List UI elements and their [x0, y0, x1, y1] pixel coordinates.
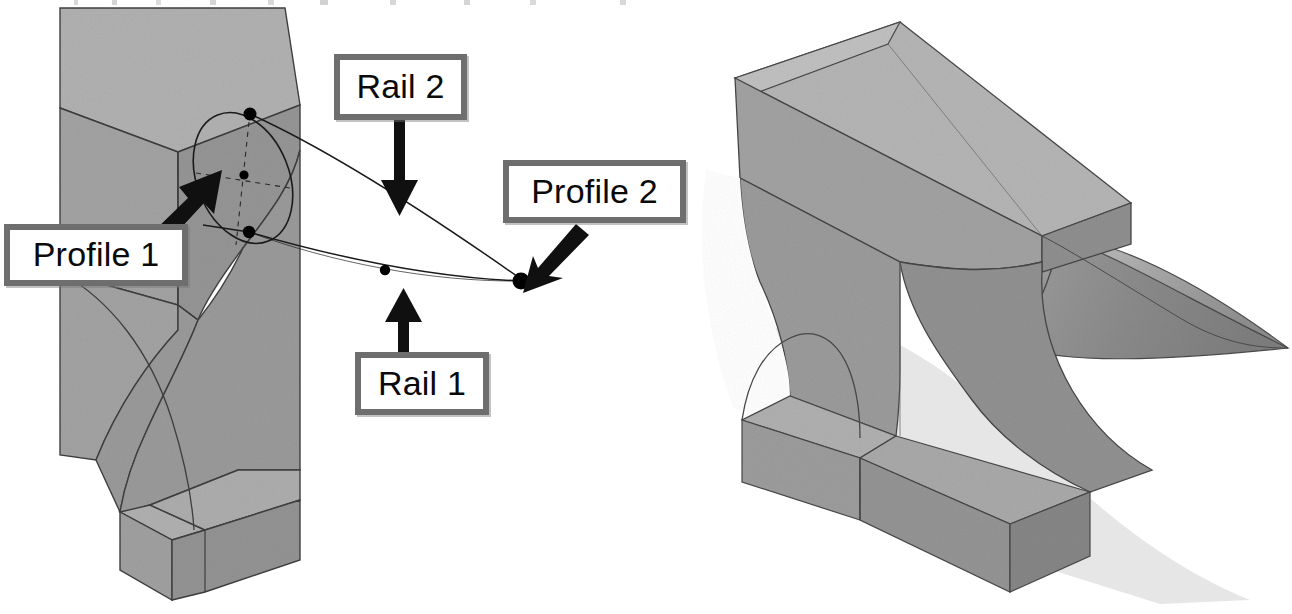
figure-illustration: [0, 0, 1292, 614]
callout-profile-1-label: Profile 1: [23, 237, 170, 271]
rail-2-leader-arrow: [381, 118, 418, 216]
rail-1-mid-point[interactable]: [380, 265, 390, 275]
callout-rail-1-label: Rail 1: [368, 366, 476, 400]
callout-profile-2-label: Profile 2: [521, 174, 668, 208]
callout-profile-2[interactable]: Profile 2: [503, 160, 686, 223]
callout-rail-1[interactable]: Rail 1: [355, 352, 489, 415]
figure-canvas: Profile 1 Rail 2 Profile 2 Rail 1: [0, 0, 1292, 614]
profile-2-leader-arrow: [523, 224, 589, 293]
profile-1-mid-point[interactable]: [239, 170, 248, 179]
right-model-group: [702, 22, 1288, 604]
callout-profile-1[interactable]: Profile 1: [4, 224, 188, 286]
callout-rail-2-label: Rail 2: [346, 69, 454, 103]
profile-1-bottom-point[interactable]: [243, 226, 255, 238]
left-model-group: [60, 8, 300, 600]
profile-1-top-point[interactable]: [244, 108, 257, 121]
scan-artifact-strip: [60, 0, 720, 5]
callout-rail-2[interactable]: Rail 2: [334, 54, 467, 120]
rail-1-leader-arrow: [385, 288, 422, 355]
